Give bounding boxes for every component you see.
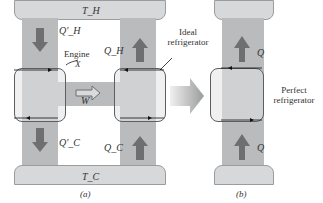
work-arrow [76, 86, 100, 100]
heat-arrows [32, 28, 250, 160]
diagram-arrows [0, 0, 323, 203]
transform-arrow [170, 78, 204, 114]
